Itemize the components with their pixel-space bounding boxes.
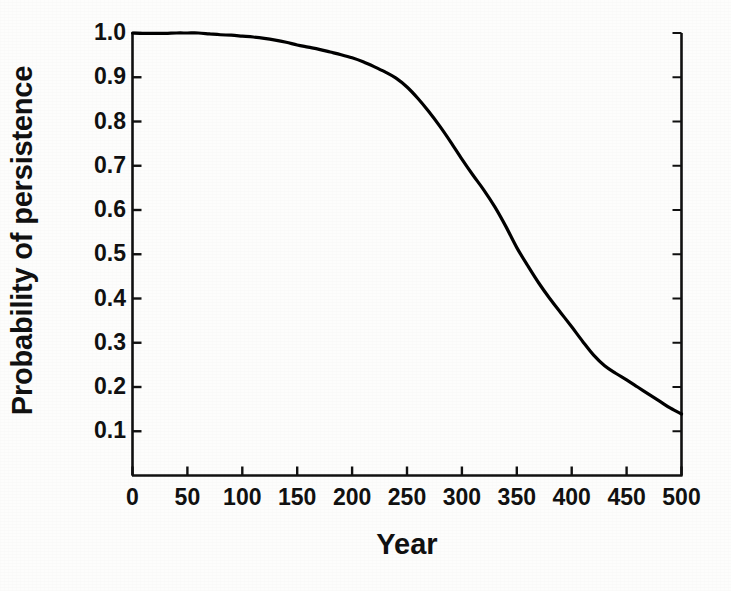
x-axis-ticks xyxy=(133,467,682,476)
x-tick-label: 300 xyxy=(443,486,481,509)
figure-panel: Probability of persistence 0.10.20.30.40… xyxy=(0,0,731,591)
x-axis-tick-labels: 050100150200250300350400450500 xyxy=(0,486,731,520)
persistence-curve xyxy=(133,33,682,414)
x-tick-label: 150 xyxy=(278,486,316,509)
x-axis-title: Year xyxy=(132,528,682,561)
x-axis-title-text: Year xyxy=(376,528,437,560)
x-tick-label: 450 xyxy=(607,486,645,509)
x-tick-label: 500 xyxy=(662,486,700,509)
axis-frame xyxy=(132,33,683,476)
x-tick-label: 100 xyxy=(223,486,261,509)
x-tick-label: 200 xyxy=(333,486,371,509)
x-tick-label: 350 xyxy=(498,486,536,509)
y-axis-ticks xyxy=(133,33,142,431)
x-tick-label: 0 xyxy=(126,486,139,509)
x-tick-label: 400 xyxy=(553,486,591,509)
x-tick-label: 50 xyxy=(175,486,201,509)
x-tick-label: 250 xyxy=(388,486,426,509)
right-axis-ticks xyxy=(673,33,682,431)
